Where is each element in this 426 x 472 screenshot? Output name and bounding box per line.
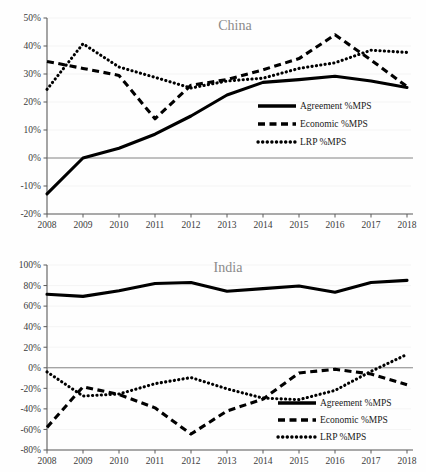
legend-label: Agreement %MPS [320, 398, 392, 408]
y-axis-tick-label: 50% [24, 13, 42, 23]
y-axis-tick-label: 40% [24, 322, 42, 332]
chart-panel-china: 50%40%30%20%10%0%-10%-20% 20082009201020… [0, 0, 426, 240]
legend-item-economic: Economic %MPS [278, 415, 388, 425]
y-axis-tick-label: 0% [28, 153, 41, 163]
y-axis-tick-label: -40% [20, 404, 41, 414]
x-axis-tick-label: 2017 [362, 456, 381, 466]
china-chart-title: China [218, 18, 252, 33]
china-gridlines [47, 18, 411, 214]
x-axis-tick-label: 2017 [362, 220, 381, 230]
legend-label: Agreement %MPS [300, 101, 372, 111]
x-axis-tick-label: 2010 [110, 220, 129, 230]
y-axis-tick-label: 10% [24, 125, 42, 135]
legend-label: LRP %MPS [320, 432, 366, 442]
legend-item-lrp: LRP %MPS [278, 432, 366, 442]
y-axis-tick-label: 20% [24, 343, 42, 353]
chart-panel-india: 100%80%60%40%20%0%-20%-40%-60%-80% 20082… [0, 240, 426, 472]
legend-label: Economic %MPS [320, 415, 388, 425]
india-ytick-labels: 100%80%60%40%20%0%-20%-40%-60%-80% [19, 260, 41, 455]
y-axis-tick-label: 100% [19, 260, 41, 270]
legend-item-agreement: Agreement %MPS [258, 101, 372, 111]
figure-page: 50%40%30%20%10%0%-10%-20% 20082009201020… [0, 0, 426, 472]
x-axis-tick-label: 2015 [290, 220, 309, 230]
series-line-agreement [47, 280, 407, 296]
y-axis-tick-label: -60% [20, 425, 41, 435]
y-axis-tick-label: -80% [20, 445, 41, 455]
x-axis-tick-label: 2011 [146, 220, 165, 230]
india-series-group [47, 280, 407, 434]
y-axis-tick-label: 80% [24, 281, 42, 291]
x-axis-tick-label: 2016 [326, 220, 345, 230]
x-axis-tick-label: 2015 [290, 456, 309, 466]
legend-item-lrp: LRP %MPS [258, 137, 346, 147]
y-axis-tick-label: 20% [24, 97, 42, 107]
china-xtick-labels: 2008200920102011201220132014201520162017… [38, 220, 417, 230]
y-axis-tick-label: 60% [24, 301, 42, 311]
legend-label: Economic %MPS [300, 119, 368, 129]
y-axis-tick-label: 40% [24, 41, 42, 51]
x-axis-tick-label: 2014 [254, 456, 273, 466]
series-line-lrp [47, 44, 407, 90]
x-axis-tick-label: 2014 [254, 220, 273, 230]
x-axis-tick-label: 2012 [182, 456, 201, 466]
x-axis-tick-label: 2018 [398, 456, 417, 466]
india-chart-svg: 100%80%60%40%20%0%-20%-40%-60%-80% 20082… [0, 240, 426, 472]
legend-item-economic: Economic %MPS [258, 119, 368, 129]
india-xtick-labels: 2008200920102011201220132014201520162017… [38, 456, 417, 466]
x-axis-tick-label: 2012 [182, 220, 201, 230]
series-line-lrp [47, 354, 407, 399]
x-axis-tick-label: 2011 [146, 456, 165, 466]
x-axis-tick-label: 2008 [38, 456, 57, 466]
series-line-agreement [47, 76, 407, 194]
china-ytick-labels: 50%40%30%20%10%0%-10%-20% [20, 13, 41, 219]
china-axes [44, 18, 414, 218]
y-axis-tick-label: -10% [20, 181, 41, 191]
x-axis-tick-label: 2009 [74, 220, 93, 230]
x-axis-tick-label: 2013 [218, 220, 237, 230]
x-axis-tick-label: 2018 [398, 220, 417, 230]
china-chart-svg: 50%40%30%20%10%0%-10%-20% 20082009201020… [0, 0, 426, 240]
india-legend: Agreement %MPSEconomic %MPSLRP %MPS [278, 398, 392, 442]
x-axis-tick-label: 2013 [218, 456, 237, 466]
x-axis-tick-label: 2008 [38, 220, 57, 230]
y-axis-tick-label: 0% [28, 363, 41, 373]
x-axis-tick-label: 2009 [74, 456, 93, 466]
india-chart-title: India [214, 260, 244, 275]
x-axis-tick-label: 2010 [110, 456, 129, 466]
legend-label: LRP %MPS [300, 137, 346, 147]
china-legend: Agreement %MPSEconomic %MPSLRP %MPS [258, 101, 372, 147]
y-axis-tick-label: -20% [20, 384, 41, 394]
x-axis-tick-label: 2016 [326, 456, 345, 466]
china-series-group [47, 35, 407, 194]
y-axis-tick-label: 30% [24, 69, 42, 79]
y-axis-tick-label: -20% [20, 209, 41, 219]
